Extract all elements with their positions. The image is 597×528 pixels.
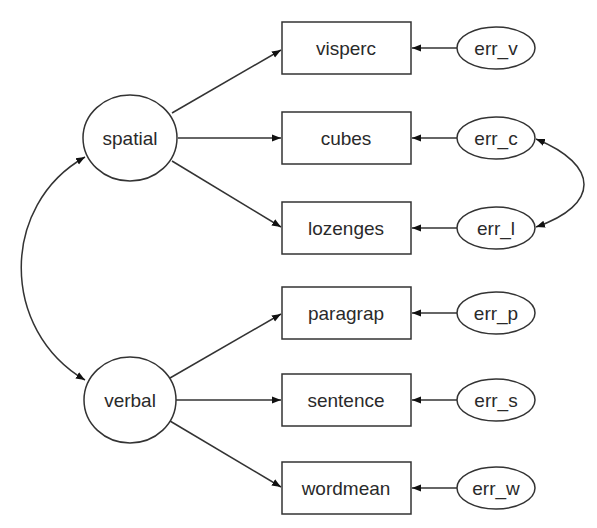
path-spatial-lozenges (172, 161, 281, 227)
label-visperc: visperc (316, 38, 376, 59)
covariance-spatial-verbal (21, 157, 85, 380)
error-err_w[interactable]: err_w (457, 467, 535, 509)
label-err_c: err_c (474, 128, 517, 150)
label-verbal: verbal (104, 390, 156, 411)
covariance-err_c-err_l (536, 139, 584, 227)
label-paragrap: paragrap (308, 303, 384, 324)
path-verbal-wordmean (170, 421, 281, 487)
label-wordmean: wordmean (301, 478, 391, 499)
error-err_l[interactable]: err_l (457, 207, 535, 249)
observed-paragrap[interactable]: paragrap (282, 287, 411, 339)
label-cubes: cubes (321, 128, 372, 149)
observed-lozenges[interactable]: lozenges (282, 202, 411, 254)
label-lozenges: lozenges (308, 218, 384, 239)
error-err_p[interactable]: err_p (457, 292, 535, 334)
error-err_c[interactable]: err_c (457, 117, 535, 159)
label-err_v: err_v (474, 38, 518, 60)
observed-sentence[interactable]: sentence (282, 374, 411, 426)
label-spatial: spatial (103, 128, 158, 149)
sem-path-diagram: spatial verbal visperc cubes lozenges pa… (0, 0, 597, 528)
label-err_p: err_p (474, 303, 518, 325)
path-verbal-paragrap (170, 314, 281, 378)
latent-factor-spatial[interactable]: spatial (83, 95, 177, 181)
label-err_l: err_l (477, 218, 515, 240)
path-spatial-visperc (172, 50, 281, 113)
observed-cubes[interactable]: cubes (282, 112, 411, 164)
latent-factor-verbal[interactable]: verbal (84, 357, 176, 443)
error-err_s[interactable]: err_s (457, 379, 535, 421)
observed-visperc[interactable]: visperc (282, 22, 411, 74)
label-sentence: sentence (307, 390, 384, 411)
label-err_s: err_s (474, 390, 517, 412)
label-err_w: err_w (472, 478, 520, 500)
observed-wordmean[interactable]: wordmean (282, 462, 411, 514)
error-err_v[interactable]: err_v (457, 27, 535, 69)
